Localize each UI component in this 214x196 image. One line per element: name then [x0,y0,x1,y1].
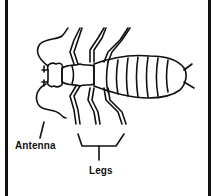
upper-antenna [38,28,68,66]
diagram-frame: Antenna Legs [0,0,214,196]
head [47,63,62,87]
lower-antenna [36,84,66,118]
leg-front-lower [70,86,76,124]
legs-bracket [78,134,124,146]
antenna-pointer-line [40,122,44,138]
cercus-top [184,64,192,70]
thorax [62,64,94,86]
cercus-bottom [184,82,194,88]
legs-label: Legs [89,165,113,176]
leg-front-upper [70,28,80,64]
antenna-label: Antenna [15,140,56,151]
